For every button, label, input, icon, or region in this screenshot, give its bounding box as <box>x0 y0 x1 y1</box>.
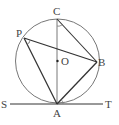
label-t: T <box>105 98 112 110</box>
label-b: B <box>98 56 105 68</box>
center-point-o <box>56 60 58 62</box>
label-a: A <box>53 107 61 119</box>
label-p: P <box>16 27 22 39</box>
label-c: C <box>53 5 60 17</box>
angle-mark-c <box>57 25 62 26</box>
label-o: O <box>61 55 69 67</box>
angle-mark-p <box>27 40 30 44</box>
label-s: S <box>1 98 7 110</box>
geometry-diagram: C P O B A S T <box>0 0 119 125</box>
